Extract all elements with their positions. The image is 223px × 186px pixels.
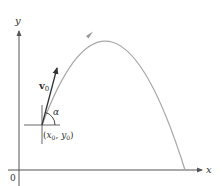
projectile-diagram: y x 0 v0 α (x0, y0) [0,0,223,186]
y-axis-label: y [14,15,21,26]
origin-label: 0 [10,173,16,183]
velocity-label: v0 [38,80,49,93]
x-axis-label: x [206,164,212,175]
launch-point-label: (x0, y0) [43,130,74,141]
trajectory-direction-arrow-icon [86,32,93,39]
angle-label: α [53,107,59,117]
trajectory-curve [42,41,185,170]
